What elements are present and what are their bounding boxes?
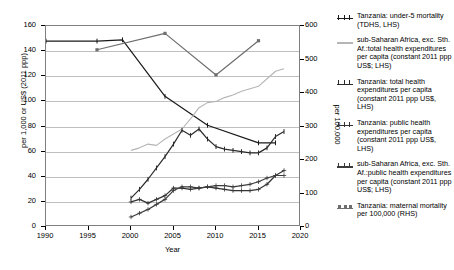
y-axis-right-tick-label: 100	[305, 189, 335, 197]
y-axis-left-tick	[41, 75, 45, 76]
legend-item[interactable]: Tanzania: public health expenditures per…	[337, 119, 454, 153]
legend-marker-icon	[337, 121, 353, 130]
y-axis-left-tick	[41, 151, 45, 152]
y-axis-right-tick-label: 400	[305, 88, 335, 96]
y-axis-right-tick-label: 600	[305, 21, 335, 29]
x-axis-tick	[300, 226, 301, 230]
x-axis-tick	[45, 226, 46, 230]
y-axis-right-tick	[300, 126, 304, 127]
legend-item[interactable]: sub-Saharan Africa, exc. Sth. Af.:total …	[337, 36, 454, 70]
y-axis-left-tick	[41, 25, 45, 26]
y-axis-left-tick	[41, 201, 45, 202]
legend-item-label: Tanzania: maternal mortality per 100,000…	[357, 202, 454, 219]
y-axis-right-tick	[300, 92, 304, 93]
legend-item[interactable]: sub-Saharan Africa, exc. Sth. Af.:public…	[337, 160, 454, 194]
y-axis-right-tick-label: 500	[305, 55, 335, 63]
x-axis-tick-label: 2010	[195, 231, 235, 240]
y-axis-right-tick	[300, 25, 304, 26]
x-axis-tick-label: 2015	[238, 231, 278, 240]
legend-item[interactable]: Tanzania: total health expenditures per …	[337, 78, 454, 112]
x-axis-tick-label: 1990	[25, 231, 65, 240]
y-axis-left-tick	[41, 176, 45, 177]
y-axis-right-tick	[300, 59, 304, 60]
y-axis-left-tick	[41, 50, 45, 51]
y-axis-right-tick	[300, 159, 304, 160]
series-2	[131, 127, 284, 201]
legend-marker-icon	[337, 14, 353, 23]
x-axis-tick-label: 1995	[68, 231, 108, 240]
x-axis-title: Year	[45, 245, 300, 254]
plot-area	[45, 25, 300, 226]
y-axis-right-tick-label: 0	[305, 222, 335, 230]
legend-marker-icon	[337, 162, 353, 171]
legend-item-label: Tanzania: total health expenditures per …	[357, 78, 454, 112]
x-axis-tick	[130, 226, 131, 230]
y-axis-right-tick-label: 300	[305, 122, 335, 130]
legend-item-label: Tanzania: under-5 mortality (TDHS, LHS)	[357, 12, 454, 29]
y-axis-left-tick-label: 20	[2, 197, 36, 205]
legend-marker-icon	[337, 38, 353, 47]
x-axis-tick	[88, 226, 89, 230]
legend-item[interactable]: Tanzania: maternal mortality per 100,000…	[337, 202, 454, 219]
legend-item-label: sub-Saharan Africa, exc. Sth. Af.:total …	[357, 36, 454, 70]
x-axis-tick-label: 2000	[110, 231, 150, 240]
legend-marker-icon	[337, 80, 353, 89]
x-axis-tick	[258, 226, 259, 230]
legend-item-label: Tanzania: public health expenditures per…	[357, 119, 454, 153]
chart-container: 020406080100120140160 per 1,000 or US$ (…	[0, 0, 454, 270]
x-axis-tick-label: 2020	[280, 231, 320, 240]
y-axis-right-tick	[300, 193, 304, 194]
series-4	[129, 173, 286, 219]
legend-marker-icon	[337, 204, 353, 213]
series-5	[95, 32, 260, 77]
x-axis-tick	[173, 226, 174, 230]
y-axis-right-tick-label: 200	[305, 155, 335, 163]
y-axis-left-tick	[41, 100, 45, 101]
legend-item[interactable]: Tanzania: under-5 mortality (TDHS, LHS)	[337, 12, 454, 29]
y-axis-left-tick-label: 0	[2, 222, 36, 230]
legend-item-label: sub-Saharan Africa, exc. Sth. Af.:public…	[357, 160, 454, 194]
chart-legend: Tanzania: under-5 mortality (TDHS, LHS)s…	[337, 12, 454, 226]
y-axis-left-title: per 1,000 or US$ (2011 ppp)	[19, 26, 28, 176]
x-axis-tick	[215, 226, 216, 230]
x-axis-tick-label: 2005	[153, 231, 193, 240]
y-axis-left-tick	[41, 126, 45, 127]
series-layer	[46, 26, 301, 227]
